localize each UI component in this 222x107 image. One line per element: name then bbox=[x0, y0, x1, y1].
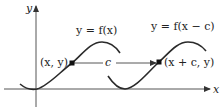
horizontal-shift-diagram: x y y = f(x) y = f(x − c) c (x, y) (x + … bbox=[0, 0, 222, 107]
point-shifted bbox=[157, 60, 162, 65]
curve-original-label: y = f(x) bbox=[75, 24, 117, 37]
y-axis-label: y bbox=[25, 2, 33, 15]
curve-shifted-label: y = f(x − c) bbox=[150, 20, 215, 33]
point-shifted-label: (x + c, y) bbox=[164, 56, 214, 69]
shift-label: c bbox=[105, 56, 111, 69]
point-original bbox=[70, 61, 75, 66]
point-original-label: (x, y) bbox=[40, 56, 68, 69]
x-axis-label: x bbox=[213, 83, 220, 96]
